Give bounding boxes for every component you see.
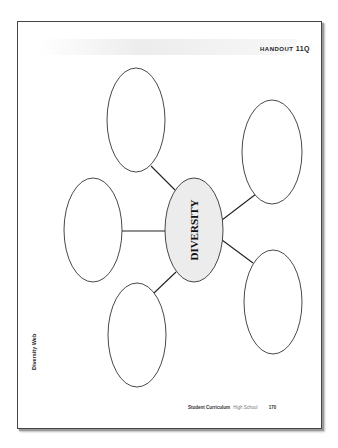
connector-bottom-right — [222, 240, 253, 263]
node-left — [64, 178, 122, 282]
node-top-right — [242, 100, 302, 204]
connector-bottom-left — [154, 272, 176, 293]
node-top — [107, 68, 165, 172]
footer-level: High School — [233, 405, 257, 410]
diversity-web-diagram: DIVERSITY — [0, 0, 338, 448]
connector-top-right — [222, 194, 256, 220]
node-bottom-left — [108, 283, 166, 387]
center-label: DIVERSITY — [188, 199, 200, 260]
footer-curriculum: Student Curriculum — [188, 405, 230, 410]
page-footer: Student Curriculum High School 170 — [188, 405, 276, 410]
page-number: 170 — [269, 405, 277, 410]
connector-top — [151, 166, 175, 190]
node-bottom-right — [244, 250, 302, 354]
side-title: Diversity Web — [31, 334, 37, 370]
